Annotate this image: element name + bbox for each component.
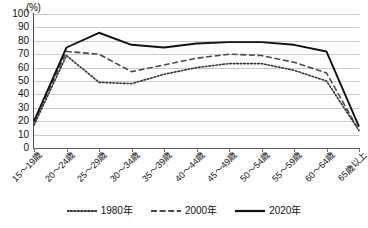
y-axis-tick-label: 10 (18, 130, 29, 140)
plot-area (34, 14, 359, 148)
y-axis-tick-labels: 1009080706050403020100 (0, 0, 32, 228)
x-axis-tick-label: 25〜29歳 (75, 150, 109, 184)
legend-item[interactable]: 1980年 (67, 206, 133, 216)
series-layer (34, 14, 359, 148)
x-axis-tick-label-wrap: 30〜34歳 (108, 150, 142, 184)
x-axis-tick-label: 50〜54歳 (238, 150, 272, 184)
y-axis-tick-label: 80 (18, 36, 29, 46)
x-axis-tick-label: 20〜24歳 (43, 150, 77, 184)
x-axis-tick-label-wrap: 65歳以上 (336, 150, 368, 183)
legend-item[interactable]: 2000年 (151, 206, 217, 216)
legend-label: 2000年 (185, 206, 217, 216)
x-axis-tick-label-wrap: 45〜49歳 (205, 150, 239, 184)
series-line (34, 52, 359, 131)
x-axis-tick-label: 45〜49歳 (205, 150, 239, 184)
x-axis-tick-label: 35〜39歳 (140, 150, 174, 184)
legend-swatch-dotted (67, 207, 97, 215)
y-axis-tick-label: 50 (18, 76, 29, 86)
x-axis-tick-label-wrap: 55〜59歳 (270, 150, 304, 184)
y-axis-tick-label: 40 (18, 89, 29, 99)
legend-swatch-dashed (151, 207, 181, 215)
x-axis-tick-label-wrap: 25〜29歳 (75, 150, 109, 184)
y-axis-tick-label: 0 (23, 143, 29, 153)
x-axis-tick-label-wrap: 50〜54歳 (238, 150, 272, 184)
legend-item[interactable]: 2020年 (235, 206, 301, 216)
legend-label: 1980年 (101, 206, 133, 216)
x-axis-tick-label: 55〜59歳 (270, 150, 304, 184)
y-axis-tick-label: 30 (18, 103, 29, 113)
x-axis-tick-labels: 15〜19歳20〜24歳25〜29歳30〜34歳35〜39歳40〜44歳45〜4… (34, 150, 359, 210)
legend-swatch-solid (235, 207, 265, 215)
x-axis-tick-label: 60〜64歳 (303, 150, 337, 184)
y-axis-tick-label: 60 (18, 63, 29, 73)
x-axis-tick-label: 65歳以上 (336, 150, 368, 183)
chart-legend: 1980年2000年2020年 (0, 206, 368, 216)
legend-label: 2020年 (269, 206, 301, 216)
x-axis-tick-label-wrap: 60〜64歳 (303, 150, 337, 184)
y-axis-tick-label: 100 (12, 9, 29, 19)
x-axis-tick-label-wrap: 20〜24歳 (43, 150, 77, 184)
x-axis-tick-label: 30〜34歳 (108, 150, 142, 184)
y-axis-tick-label: 20 (18, 116, 29, 126)
x-axis-tick-label: 40〜44歳 (173, 150, 207, 184)
x-axis-tick-label-wrap: 35〜39歳 (140, 150, 174, 184)
series-line (34, 33, 359, 127)
y-axis-tick-label: 70 (18, 49, 29, 59)
line-chart: (%) 1009080706050403020100 15〜19歳20〜24歳2… (0, 0, 368, 228)
y-axis-tick-label: 90 (18, 22, 29, 32)
x-axis-tick-label-wrap: 40〜44歳 (173, 150, 207, 184)
